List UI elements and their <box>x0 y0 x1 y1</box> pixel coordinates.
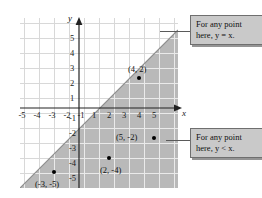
x-tick--4: -4 <box>30 110 44 120</box>
y-tick--5: -5 <box>69 173 76 183</box>
data-point-dot <box>52 170 56 174</box>
callout-leader-line-top <box>160 31 192 32</box>
y-tick-5: 5 <box>70 33 74 43</box>
data-point-dot <box>107 156 111 160</box>
x-tick--1: -1 <box>74 110 88 120</box>
y-tick-1: 1 <box>70 93 74 103</box>
y-tick-3: 3 <box>70 63 74 73</box>
y-tick-4: 4 <box>70 48 74 58</box>
data-point-label: (-3, -5) <box>35 179 59 189</box>
data-point-dot <box>137 76 141 80</box>
x-tick-3: 3 <box>118 110 130 120</box>
data-point-label: (4, 2) <box>128 64 146 74</box>
x-axis-label: x <box>182 108 186 118</box>
y-tick--4: -4 <box>69 158 76 168</box>
x-tick-4: 4 <box>133 110 145 120</box>
y-tick--2: -2 <box>69 128 76 138</box>
x-tick-1: 1 <box>88 110 100 120</box>
x-tick--5: -5 <box>15 110 29 120</box>
callout-leader-line-bottom <box>166 140 192 141</box>
data-point-dot <box>152 136 156 140</box>
y-tick--1: -1 <box>69 113 76 123</box>
coordinate-plane-figure: y x -5 -4 -3 -2 -1 1 2 3 4 5 5 4 3 2 1 -… <box>0 0 262 198</box>
x-tick-2: 2 <box>103 110 115 120</box>
callout-box-region: For any point here, y < x. <box>190 128 262 158</box>
y-tick--3: -3 <box>69 143 76 153</box>
data-point-label: (2, -4) <box>100 165 121 175</box>
x-tick-5: 5 <box>148 110 160 120</box>
x-tick--3: -3 <box>45 110 59 120</box>
callout-box-boundary: For any point here, y = x. <box>190 15 262 45</box>
data-point-label: (5, -2) <box>116 132 137 142</box>
y-axis-label: y <box>68 13 72 23</box>
y-tick-2: 2 <box>70 78 74 88</box>
plot-area <box>20 18 178 188</box>
